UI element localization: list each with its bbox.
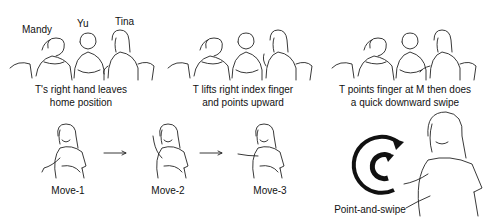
person-label-tina: Tina [115,16,134,27]
group-sketch-icon [166,30,316,85]
caption-line: and points upward [162,96,324,109]
circular-arrow-icon [348,130,418,200]
move-label: Move-2 [148,185,188,196]
move-label: Move-1 [48,185,88,196]
caption-line: T's right hand leaves [0,83,162,96]
right-arrow-icon [104,150,128,156]
woman-sketch-icon [236,122,288,180]
right-arrow-icon [200,150,224,156]
move-label: Move-3 [250,185,290,196]
group-sketch-icon [330,30,480,85]
caption-line: home position [0,96,162,109]
gesture-label: Point-and-swipe [330,204,410,215]
woman-sketch-icon [140,122,192,180]
person-label-yu: Yu [77,18,89,29]
caption-line: T lifts right index finger [162,83,324,96]
woman-sketch-icon [38,122,90,180]
group-sketch-icon [8,30,158,85]
caption-line: T points finger at M then does [324,83,486,96]
